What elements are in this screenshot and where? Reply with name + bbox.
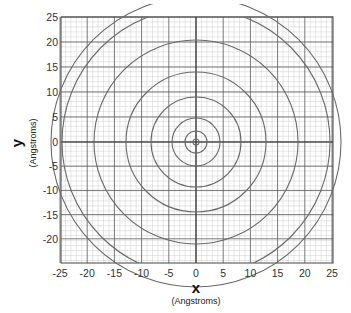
x-tick-label: 15 bbox=[272, 267, 284, 279]
x-tick-label: -10 bbox=[134, 267, 149, 279]
x-tick-label: -20 bbox=[80, 267, 95, 279]
y-tick-label: -5 bbox=[49, 160, 58, 172]
x-tick-label: -25 bbox=[52, 267, 67, 279]
y-tick-label: -10 bbox=[43, 184, 58, 196]
x-tick-label: -15 bbox=[107, 267, 122, 279]
x-tick-label: 0 bbox=[193, 267, 199, 279]
x-tick-label: 10 bbox=[245, 267, 257, 279]
concentric-circles-chart: -25-20-15-10-50510152025 2520151050-5-10… bbox=[0, 0, 351, 313]
plot-background bbox=[61, 17, 333, 263]
y-tick-label: 0 bbox=[52, 136, 58, 148]
x-tick-label: -5 bbox=[164, 267, 173, 279]
x-tick-label: 5 bbox=[220, 267, 226, 279]
y-tick-label: -20 bbox=[43, 233, 58, 245]
x-axis-label: x bbox=[192, 279, 201, 296]
y-tick-label: 5 bbox=[52, 111, 58, 123]
x-axis-unit: (Angstroms) bbox=[171, 296, 220, 306]
y-tick-label: 15 bbox=[46, 61, 58, 73]
y-tick-label: 25 bbox=[46, 11, 58, 23]
x-tick-label: 20 bbox=[299, 267, 311, 279]
x-tick-labels: -25-20-15-10-50510152025 bbox=[52, 267, 338, 279]
y-axis-unit: (Angstroms) bbox=[28, 118, 38, 167]
x-tick-label: 25 bbox=[326, 267, 338, 279]
y-tick-label: 20 bbox=[46, 36, 58, 48]
y-tick-label: -15 bbox=[43, 209, 58, 221]
y-tick-label: 10 bbox=[46, 86, 58, 98]
y-axis-label: y bbox=[8, 138, 25, 147]
y-tick-labels: 2520151050-5-10-15-20 bbox=[43, 11, 58, 245]
